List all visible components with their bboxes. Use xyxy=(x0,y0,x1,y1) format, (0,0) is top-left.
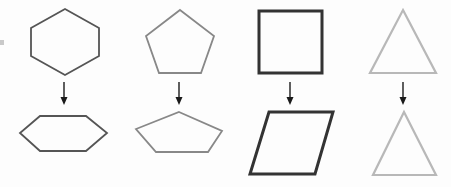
left-edge-speck xyxy=(0,40,4,45)
figure-background xyxy=(0,0,451,187)
figure-canvas xyxy=(0,0,451,187)
shape-transformation-figure: Shape transformation pairs Four columns,… xyxy=(0,0,451,187)
